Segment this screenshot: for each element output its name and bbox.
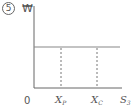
plot-area bbox=[0, 0, 136, 112]
origin-label: 0 bbox=[24, 96, 30, 106]
xc-tick-label: XC bbox=[91, 95, 103, 106]
xp-tick-label: XP bbox=[55, 95, 66, 106]
chart-figure: 5 ₩ 0 XP XC S3 bbox=[0, 0, 136, 112]
x-axis-end-label: S3 bbox=[120, 95, 131, 106]
